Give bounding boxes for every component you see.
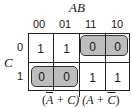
expr-term1-rest: + C) bbox=[53, 93, 79, 107]
kmap-cell: 0 bbox=[54, 62, 79, 91]
kmap-cell: 1 bbox=[105, 63, 130, 92]
expr-term2-close: ) bbox=[115, 93, 119, 107]
row-header: 0 bbox=[17, 42, 23, 53]
expr-term2-open: (A + bbox=[82, 93, 107, 107]
kmap-cell: 1 bbox=[28, 34, 53, 63]
column-variable-label: AB bbox=[69, 1, 85, 14]
kmap-cell: 0 bbox=[80, 32, 105, 61]
column-header: 11 bbox=[85, 19, 96, 30]
kmap-cell: 1 bbox=[80, 63, 105, 92]
kmap-cell: 0 bbox=[105, 32, 130, 61]
column-header: 00 bbox=[33, 19, 45, 30]
column-header: 01 bbox=[59, 19, 71, 30]
kmap-cell: 1 bbox=[54, 34, 79, 63]
column-header: 10 bbox=[111, 19, 123, 30]
row-variable-label: C bbox=[4, 56, 13, 69]
kmap-cell: 0 bbox=[29, 62, 54, 91]
row-header: 1 bbox=[17, 71, 23, 82]
result-expression: (A + C) (A + C) bbox=[42, 94, 119, 106]
